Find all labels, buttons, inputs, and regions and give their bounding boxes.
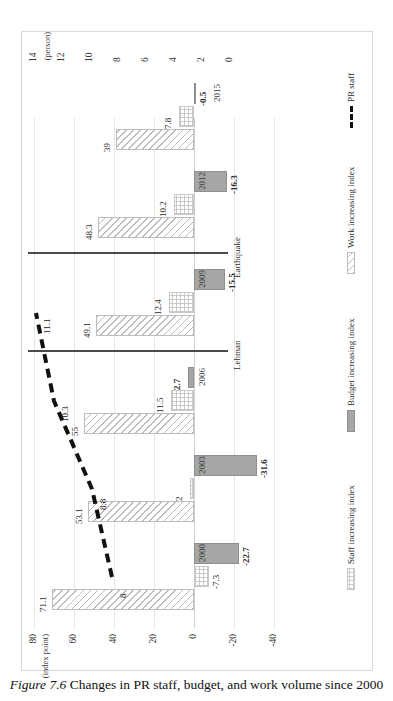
- legend-swatch-pr-line-icon: [349, 106, 352, 128]
- chart-plot-frame: 80 (index point) 60 40 20 0 -20 -40 14 (…: [21, 31, 373, 671]
- rotated-chart-wrapper: 80 (index point) 60 40 20 0 -20 -40 14 (…: [21, 31, 373, 671]
- legend-item-budget: Budget increasing index: [346, 318, 356, 431]
- legend-label-staff: Staff increasing index: [346, 485, 356, 564]
- pr-value-2006: 10.3: [60, 406, 70, 422]
- figure-stage: 80 (index point) 60 40 20 0 -20 -40 14 (…: [0, 0, 393, 701]
- figure-caption-text: Changes in PR staff, budget, and work vo…: [70, 677, 384, 692]
- legend-item-pr: PR staff: [346, 72, 356, 127]
- legend-swatch-budget-icon: [347, 410, 355, 432]
- pr-value-2000: 8: [118, 593, 128, 598]
- legend-label-work: Work increasing index: [346, 166, 356, 247]
- pr-value-2003: 8.8: [98, 498, 108, 509]
- pr-value-2009: 11.1: [42, 318, 52, 333]
- figure-caption: Figure 7.6 Changes in PR staff, budget, …: [0, 677, 393, 693]
- legend-swatch-work-icon: [347, 252, 355, 274]
- pr-staff-line: [22, 30, 374, 670]
- legend-item-staff: Staff increasing index: [346, 485, 356, 590]
- legend-swatch-staff-icon: [347, 568, 355, 590]
- chart-legend: Staff increasing index Budget increasing…: [346, 52, 366, 628]
- figure-number: Figure 7.6: [10, 677, 67, 692]
- legend-item-work: Work increasing index: [346, 166, 356, 273]
- legend-label-budget: Budget increasing index: [346, 318, 356, 405]
- legend-label-pr: PR staff: [346, 72, 356, 101]
